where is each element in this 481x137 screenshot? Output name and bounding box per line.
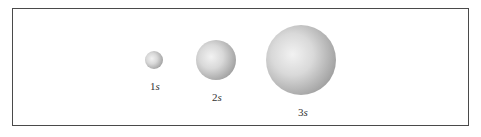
orbital-3s-sphere <box>266 25 336 95</box>
orbital-1s-sphere <box>145 51 163 69</box>
orbital-3s-label: 3s <box>298 106 308 118</box>
orbital-1s-label: 1s <box>150 80 160 92</box>
diagram-frame <box>12 8 469 126</box>
orbital-2s-sphere <box>196 40 236 80</box>
orbital-2s-label: 2s <box>212 91 222 103</box>
